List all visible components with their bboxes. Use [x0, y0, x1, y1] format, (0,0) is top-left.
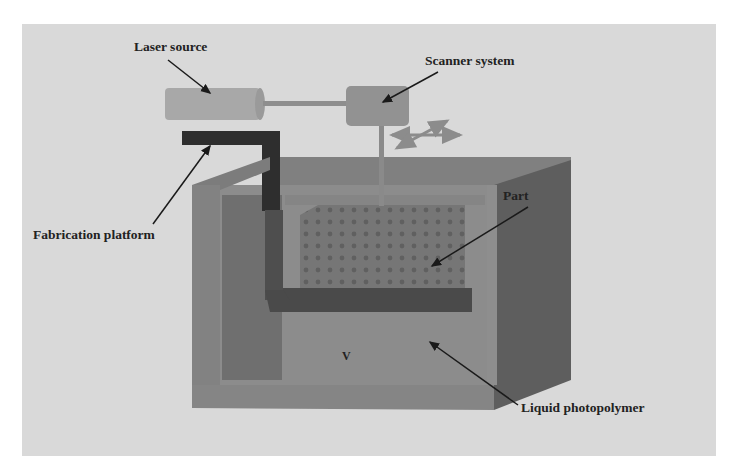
label-laser-source-text: Laser source — [134, 39, 207, 54]
part — [270, 205, 472, 312]
scanner-system — [346, 86, 409, 126]
label-fabrication-platform-text: Fabrication platform — [33, 227, 156, 242]
label-part-text: Part — [503, 188, 529, 203]
label-laser-source: Laser source — [134, 39, 210, 93]
laser-beam-horizontal — [263, 101, 347, 106]
label-fabrication-platform: Fabrication platform — [33, 146, 210, 242]
label-scanner-system-text: Scanner system — [425, 53, 515, 68]
sla-diagram: Laser source Scanner system Fabrication … — [0, 0, 735, 474]
vat-mark: V — [342, 349, 351, 363]
tank-bottom — [192, 385, 494, 410]
laser-beam — [379, 126, 384, 206]
label-liquid-photopolymer-text: Liquid photopolymer — [521, 400, 644, 415]
laser-source — [165, 88, 347, 120]
